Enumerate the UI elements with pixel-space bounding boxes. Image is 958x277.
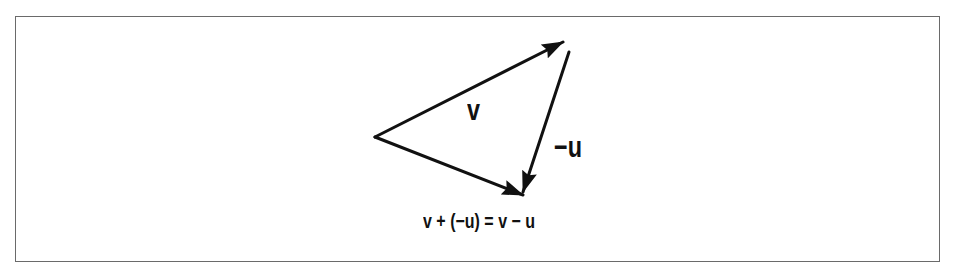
vector-resultant-shaft xyxy=(375,137,523,195)
vector-neg-u-shaft xyxy=(523,52,569,192)
vector-neg-u xyxy=(523,52,569,192)
vector-resultant xyxy=(375,137,523,195)
vector-neg-u-label: −u xyxy=(554,130,582,164)
figure-caption-equation: v + (−u) = v − u xyxy=(0,210,958,233)
equation-text: v + (−u) = v − u xyxy=(423,210,535,233)
vector-diagram xyxy=(0,0,958,277)
vector-v-label: v xyxy=(467,93,480,127)
